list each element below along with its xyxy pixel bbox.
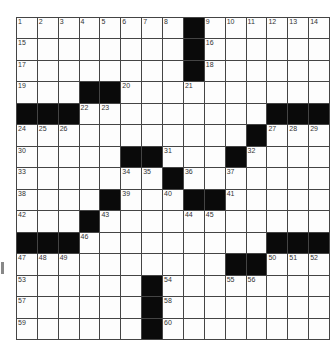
grid-cell[interactable]	[38, 168, 58, 188]
grid-cell[interactable]: 36	[184, 168, 204, 188]
grid-cell[interactable]	[59, 147, 79, 167]
grid-cell[interactable]	[205, 319, 225, 339]
grid-cell[interactable]: 41	[226, 190, 246, 210]
grid-cell[interactable]	[163, 125, 183, 145]
grid-cell[interactable]: 20	[121, 82, 141, 102]
grid-cell[interactable]	[163, 233, 183, 253]
grid-cell[interactable]	[288, 39, 308, 59]
grid-cell[interactable]: 23	[100, 104, 120, 124]
grid-cell[interactable]	[80, 61, 100, 81]
grid-cell[interactable]	[267, 190, 287, 210]
grid-cell[interactable]	[142, 104, 162, 124]
grid-cell[interactable]	[59, 61, 79, 81]
grid-cell[interactable]	[80, 276, 100, 296]
grid-cell[interactable]	[80, 190, 100, 210]
grid-cell[interactable]	[309, 82, 329, 102]
grid-cell[interactable]	[267, 147, 287, 167]
grid-cell[interactable]	[121, 297, 141, 317]
grid-cell[interactable]	[226, 125, 246, 145]
grid-cell[interactable]	[38, 82, 58, 102]
grid-cell[interactable]	[142, 190, 162, 210]
grid-cell[interactable]	[226, 104, 246, 124]
grid-cell[interactable]: 27	[267, 125, 287, 145]
grid-cell[interactable]: 32	[247, 147, 267, 167]
grid-cell[interactable]: 57	[17, 297, 37, 317]
grid-cell[interactable]	[121, 276, 141, 296]
grid-cell[interactable]	[267, 211, 287, 231]
grid-cell[interactable]	[309, 211, 329, 231]
grid-cell[interactable]	[309, 190, 329, 210]
grid-cell[interactable]	[38, 211, 58, 231]
grid-cell[interactable]	[205, 254, 225, 274]
grid-cell[interactable]	[100, 125, 120, 145]
grid-cell[interactable]	[247, 104, 267, 124]
grid-cell[interactable]	[121, 319, 141, 339]
grid-cell[interactable]	[100, 233, 120, 253]
grid-cell[interactable]: 25	[38, 125, 58, 145]
grid-cell[interactable]	[121, 254, 141, 274]
grid-cell[interactable]	[59, 190, 79, 210]
grid-cell[interactable]: 14	[309, 18, 329, 38]
grid-cell[interactable]	[309, 319, 329, 339]
grid-cell[interactable]: 8	[163, 18, 183, 38]
grid-cell[interactable]: 39	[121, 190, 141, 210]
grid-cell[interactable]	[100, 168, 120, 188]
grid-cell[interactable]	[142, 39, 162, 59]
grid-cell[interactable]	[184, 147, 204, 167]
grid-cell[interactable]: 26	[59, 125, 79, 145]
grid-cell[interactable]: 44	[184, 211, 204, 231]
grid-cell[interactable]: 12	[267, 18, 287, 38]
grid-cell[interactable]: 46	[80, 233, 100, 253]
grid-cell[interactable]	[247, 39, 267, 59]
grid-cell[interactable]: 15	[17, 39, 37, 59]
grid-cell[interactable]	[121, 211, 141, 231]
grid-cell[interactable]: 28	[288, 125, 308, 145]
grid-cell[interactable]: 40	[163, 190, 183, 210]
grid-cell[interactable]	[288, 147, 308, 167]
grid-cell[interactable]: 21	[184, 82, 204, 102]
grid-cell[interactable]: 47	[17, 254, 37, 274]
grid-cell[interactable]	[121, 104, 141, 124]
grid-cell[interactable]	[288, 276, 308, 296]
grid-cell[interactable]: 33	[17, 168, 37, 188]
grid-cell[interactable]	[142, 233, 162, 253]
grid-cell[interactable]: 49	[59, 254, 79, 274]
grid-cell[interactable]	[100, 39, 120, 59]
grid-cell[interactable]	[80, 125, 100, 145]
grid-cell[interactable]	[59, 276, 79, 296]
grid-cell[interactable]	[309, 276, 329, 296]
grid-cell[interactable]	[59, 39, 79, 59]
grid-cell[interactable]	[226, 233, 246, 253]
grid-cell[interactable]	[121, 125, 141, 145]
grid-cell[interactable]: 59	[17, 319, 37, 339]
grid-cell[interactable]	[38, 61, 58, 81]
grid-cell[interactable]: 24	[17, 125, 37, 145]
grid-cell[interactable]: 9	[205, 18, 225, 38]
grid-cell[interactable]: 60	[163, 319, 183, 339]
grid-cell[interactable]: 22	[80, 104, 100, 124]
grid-cell[interactable]	[100, 276, 120, 296]
grid-cell[interactable]	[184, 233, 204, 253]
grid-cell[interactable]: 16	[205, 39, 225, 59]
grid-cell[interactable]	[226, 211, 246, 231]
grid-cell[interactable]	[38, 190, 58, 210]
grid-cell[interactable]: 52	[309, 254, 329, 274]
grid-cell[interactable]	[80, 39, 100, 59]
grid-cell[interactable]	[205, 233, 225, 253]
grid-cell[interactable]: 6	[121, 18, 141, 38]
grid-cell[interactable]: 58	[163, 297, 183, 317]
grid-cell[interactable]	[288, 61, 308, 81]
grid-cell[interactable]	[226, 297, 246, 317]
grid-cell[interactable]: 56	[247, 276, 267, 296]
grid-cell[interactable]	[226, 61, 246, 81]
grid-cell[interactable]	[247, 82, 267, 102]
grid-cell[interactable]	[121, 39, 141, 59]
grid-cell[interactable]	[205, 147, 225, 167]
grid-cell[interactable]	[38, 39, 58, 59]
grid-cell[interactable]	[247, 233, 267, 253]
grid-cell[interactable]	[184, 297, 204, 317]
grid-cell[interactable]	[142, 61, 162, 81]
grid-cell[interactable]	[163, 82, 183, 102]
grid-cell[interactable]	[205, 297, 225, 317]
grid-cell[interactable]: 5	[100, 18, 120, 38]
